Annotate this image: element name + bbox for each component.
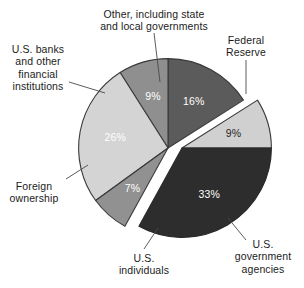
pie-value-foreign-ownership: 26% bbox=[104, 131, 126, 143]
pie-value-other: 16% bbox=[183, 95, 205, 107]
pie-value-us-banks: 9% bbox=[145, 90, 161, 102]
leader-line-us-banks bbox=[69, 82, 105, 93]
cropped-top-text bbox=[0, 0, 304, 3]
pie-value-federal-reserve: 9% bbox=[226, 127, 242, 139]
pie-chart-figure: 16% 9% 26% 7% 9% 33% Other, including st… bbox=[0, 0, 304, 288]
pie-chart-svg: 16% 9% 26% 7% 9% 33% bbox=[0, 0, 304, 288]
pie-value-us-individuals: 7% bbox=[125, 182, 141, 194]
leader-line-us-gov-agencies bbox=[228, 218, 246, 240]
pie-value-us-gov-agencies: 33% bbox=[198, 188, 220, 200]
